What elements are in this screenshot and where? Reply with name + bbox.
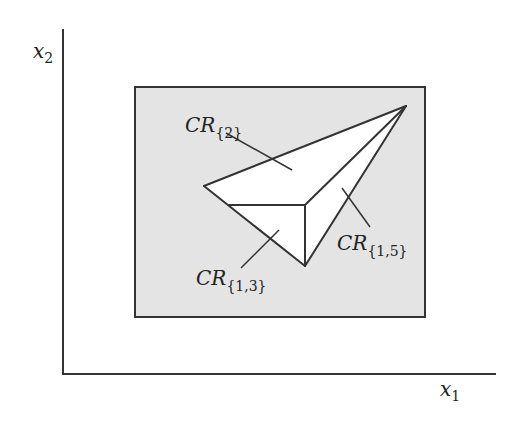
x-axis-label: x1 [440, 377, 460, 404]
critical-region-diagram: x2 x1 CR{2} CR{1,5} CR{1,3} [0, 0, 513, 427]
y-axis-label: x2 [33, 39, 53, 66]
